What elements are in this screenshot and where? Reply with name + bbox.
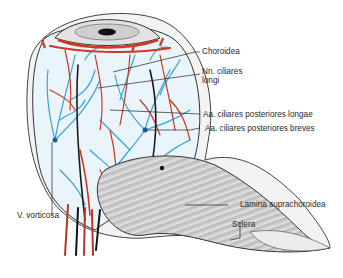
label-choroidea: Choroidea xyxy=(202,47,240,56)
vortex-vein-left xyxy=(53,138,58,143)
label-v-vorticosa: V. vorticosa xyxy=(17,211,59,220)
label-nn-ciliares-longi-line1: Nn. ciliares xyxy=(202,67,243,76)
label-sclera: Sclera xyxy=(232,220,255,229)
label-lamina-suprachoroidea: Lamina suprachoroidea xyxy=(240,200,326,209)
label-aa-ciliares-posteriores-longae: Aa. ciliares posteriores longae xyxy=(203,110,313,119)
eye-anatomy-illustration xyxy=(0,0,343,278)
label-nn-ciliares-longi-line2: longi xyxy=(202,76,219,85)
label-aa-ciliares-posteriores-breves: Aa. ciliares posteriores breves xyxy=(205,124,315,133)
